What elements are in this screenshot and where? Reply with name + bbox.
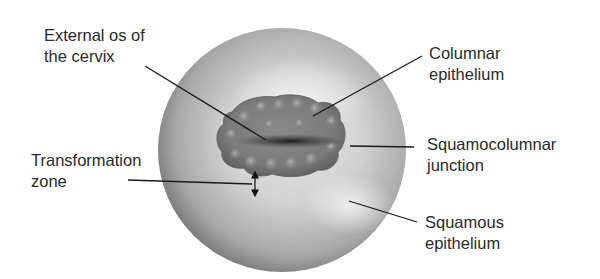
label-squamous-epithelium: Squamous epithelium — [425, 212, 504, 254]
surface-highlight-lower — [305, 175, 395, 235]
label-columnar-epithelium: Columnar epithelium — [429, 43, 504, 85]
label-transformation-zone: Transformation zone — [31, 150, 141, 192]
external-os — [235, 134, 345, 148]
cervix-diagram: External os of the cervix Columnar epith… — [0, 0, 600, 279]
label-squamocolumnar-junction: Squamocolumnar junction — [427, 134, 556, 176]
label-external-os: External os of the cervix — [44, 25, 145, 67]
